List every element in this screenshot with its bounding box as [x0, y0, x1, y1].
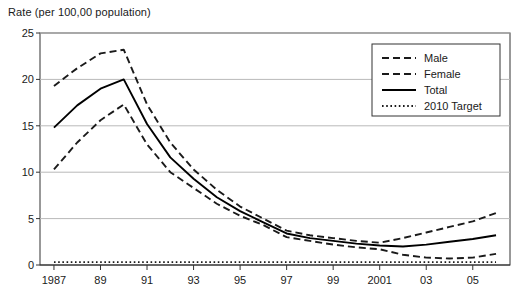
x-tick-label: 95 [234, 274, 246, 286]
legend-label-female: Female [424, 68, 461, 80]
y-tick-label: 20 [22, 73, 34, 85]
x-tick-label: 2001 [367, 274, 391, 286]
chart-plot-area: 0510152025198789919395979920010305MaleFe… [0, 0, 527, 303]
x-tick-label: 91 [141, 274, 153, 286]
legend-label-total: Total [424, 84, 447, 96]
legend-label-2010-target: 2010 Target [424, 100, 482, 112]
legend-label-male: Male [424, 52, 448, 64]
y-tick-label: 0 [28, 259, 34, 271]
x-tick-label: 03 [420, 274, 432, 286]
x-tick-label: 97 [281, 274, 293, 286]
y-tick-label: 5 [28, 213, 34, 225]
x-tick-label: 93 [187, 274, 199, 286]
chart-svg: 0510152025198789919395979920010305MaleFe… [0, 0, 527, 303]
x-tick-label: 1987 [42, 274, 66, 286]
chart-container: Rate (per 100,00 population) 05101520251… [0, 0, 527, 303]
y-tick-label: 25 [22, 27, 34, 39]
y-tick-label: 15 [22, 120, 34, 132]
x-tick-label: 99 [327, 274, 339, 286]
y-tick-label: 10 [22, 166, 34, 178]
x-tick-label: 89 [94, 274, 106, 286]
x-tick-label: 05 [467, 274, 479, 286]
